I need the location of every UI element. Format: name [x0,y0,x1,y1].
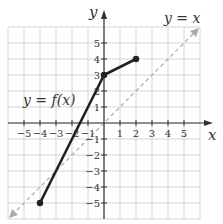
graph: −5−4−3−2−11234554321−1−2−3−4−5 y x y = f… [0,0,223,224]
x-tick-label: −5 [17,128,32,139]
y-axis-arrow-icon [101,10,107,19]
y-tick-label: −3 [85,166,100,177]
x-tick-label: 1 [117,128,123,139]
x-tick-label: 4 [165,128,171,139]
x-axis-label: x [208,126,217,144]
y-tick-label: −1 [85,134,100,145]
endpoint-dot [101,72,107,78]
identity-label: y = x [163,10,201,26]
y-tick-label: 4 [94,54,100,65]
endpoint-dot [37,200,43,206]
x-tick-label: −4 [33,128,48,139]
y-tick-label: 1 [94,102,100,113]
y-axis-label: y [88,3,98,21]
x-tick-label: 5 [181,128,187,139]
endpoint-dot [133,56,139,62]
y-tick-label: −4 [85,182,100,193]
x-tick-label: 2 [133,128,139,139]
x-tick-label: 3 [149,128,155,139]
y-tick-label: −5 [85,198,100,209]
x-tick-label: −3 [49,128,64,139]
y-tick-label: 5 [94,38,100,49]
y-tick-label: −2 [85,150,100,161]
y-tick-label: 3 [94,70,100,81]
f-label: y = f(x) [22,92,76,108]
